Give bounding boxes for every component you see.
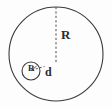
outer-radius-label: R <box>61 28 70 41</box>
geometry-diagram: R d R <box>0 0 112 107</box>
distance-label: d <box>45 66 52 78</box>
diagram-canvas <box>0 0 112 107</box>
inner-radius-label: R <box>28 64 35 73</box>
